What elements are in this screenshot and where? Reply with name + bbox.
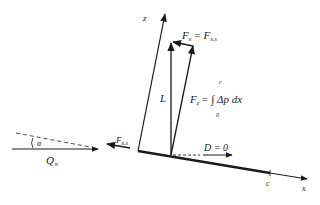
x-axis (270, 170, 307, 179)
drag-label: D = 0 (203, 142, 228, 153)
fx-top-vector (173, 42, 193, 46)
airfoil-force-diagram: z x c Fx= Fx,s L Fz= ∫ Δp dx c 0 D = 0 F… (0, 0, 320, 205)
suction-force-label: Fx,s (115, 135, 129, 146)
freestream-label: Q∞ (46, 154, 59, 167)
chord-label: c (266, 179, 270, 188)
freestream-vector (12, 133, 98, 149)
x-axis-label: x (301, 184, 306, 193)
z-axis-label: z (142, 13, 147, 23)
integral-lower-limit: 0 (216, 112, 219, 118)
z-axis (138, 14, 165, 151)
lift-label: L (159, 92, 166, 104)
flat-plate-chord (138, 151, 270, 173)
alpha-label: α (37, 139, 42, 148)
integral-upper-limit: c (219, 79, 222, 85)
fz-label: Fz= ∫ Δp dx (189, 93, 242, 106)
fx-top-label: Fx= Fx,s (181, 29, 217, 42)
